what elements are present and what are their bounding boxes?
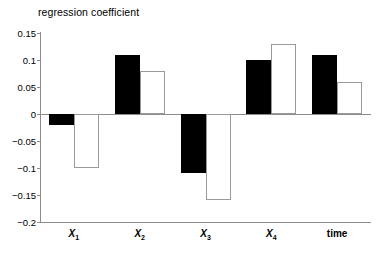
- x-axis-label-X2: X2: [134, 228, 145, 241]
- y-tick-label-2: 0.05: [18, 82, 37, 93]
- y-tick-label-3: 0: [31, 109, 36, 120]
- y-axis-tick-labels: 0.15 0.1 0.05 0 −0.05 −0.1 −0.15 −0.2: [0, 0, 36, 256]
- x-axis-label-time: time: [327, 228, 348, 239]
- y-tick-label-0: 0.15: [18, 28, 37, 39]
- bar-time-black: [312, 55, 337, 114]
- bar-time-white: [337, 82, 362, 114]
- bar-X4-black: [246, 60, 271, 114]
- bar-X3-white: [206, 114, 231, 200]
- bar-X3-black: [181, 114, 206, 173]
- x-axis-label-X4: X4: [266, 228, 277, 241]
- y-tick-label-5: −0.1: [17, 163, 36, 174]
- x-axis-label-X1: X1: [69, 228, 80, 241]
- x-axis-label-X3: X3: [200, 228, 211, 241]
- y-tick-label-4: −0.05: [12, 136, 36, 147]
- bar-X2-white: [140, 71, 165, 114]
- bar-X1-white: [74, 114, 99, 168]
- y-axis-line: [40, 32, 41, 223]
- y-tick-label-1: 0.1: [23, 55, 36, 66]
- y-tick-label-6: −0.15: [12, 190, 36, 201]
- bar-X4-white: [271, 44, 296, 114]
- bar-X2-black: [115, 55, 140, 114]
- chart-title: regression coefficient: [38, 6, 139, 18]
- bar-X1-black: [49, 114, 74, 125]
- regression-coefficient-bar-chart: regression coefficient 0.15 0.1 0.05 0 −…: [0, 0, 381, 256]
- x-axis-bottom-line: [40, 222, 371, 223]
- y-tick-label-7: −0.2: [17, 217, 36, 228]
